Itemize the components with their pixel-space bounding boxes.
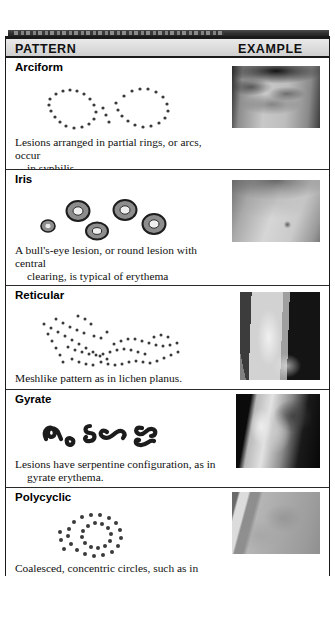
pattern-cell-reticular: Reticular <box>6 286 228 387</box>
iris-skin-photo <box>232 180 320 242</box>
previous-row-bleed <box>0 0 335 36</box>
gyrate-face-photo <box>236 394 320 468</box>
column-header-example: EXAMPLE <box>238 42 303 56</box>
polycyclic-dot-diagram <box>6 504 228 562</box>
cropped-text-artifact <box>14 31 224 35</box>
lesion-pattern-table: PATTERN EXAMPLE Arciform <box>5 36 330 576</box>
table-row: Reticular <box>6 286 329 390</box>
table-body: Arciform <box>6 58 329 576</box>
pattern-heading: Reticular <box>6 286 228 302</box>
photo-image <box>236 394 320 468</box>
pattern-heading: Polycyclic <box>6 488 228 504</box>
pattern-cell-iris: Iris <box>6 170 228 286</box>
photo-image <box>240 292 320 380</box>
table-header-row: PATTERN EXAMPLE <box>6 36 329 58</box>
photo-image <box>232 66 320 128</box>
table-row: Iris <box>6 170 329 286</box>
arciform-skin-photo <box>232 66 320 128</box>
pattern-caption: Lesions have serpentine configuration, a… <box>6 458 228 486</box>
pattern-heading: Arciform <box>6 58 228 74</box>
pattern-caption: Lesions arranged in partial rings, or ar… <box>6 136 228 170</box>
table-row: Arciform <box>6 58 329 170</box>
table-row: Polycyclic <box>6 488 329 576</box>
photo-image <box>232 492 320 554</box>
pattern-caption: Meshlike pattern as in lichen planus. <box>6 372 228 387</box>
photo-image <box>232 180 320 242</box>
column-header-pattern: PATTERN <box>15 42 76 56</box>
gyrate-serpentine-diagram <box>6 406 228 458</box>
arciform-dot-diagram <box>6 74 228 136</box>
polycyclic-skin-photo <box>232 492 320 554</box>
reticular-dot-diagram <box>6 302 228 372</box>
reticular-ankle-photo <box>240 292 320 380</box>
pattern-heading: Gyrate <box>6 390 228 406</box>
iris-target-lesion-diagram <box>6 186 228 244</box>
pattern-heading: Iris <box>6 170 228 186</box>
pattern-cell-polycyclic: Polycyclic <box>6 488 228 576</box>
pattern-cell-arciform: Arciform <box>6 58 228 170</box>
pattern-caption: Coalesced, concentric circles, such as i… <box>6 562 228 576</box>
pattern-caption: A bull's-eye lesion, or round lesion wit… <box>6 244 228 286</box>
table-row: Gyrate Lesions have serpe <box>6 390 329 488</box>
pattern-cell-gyrate: Gyrate Lesions have serpe <box>6 390 228 486</box>
